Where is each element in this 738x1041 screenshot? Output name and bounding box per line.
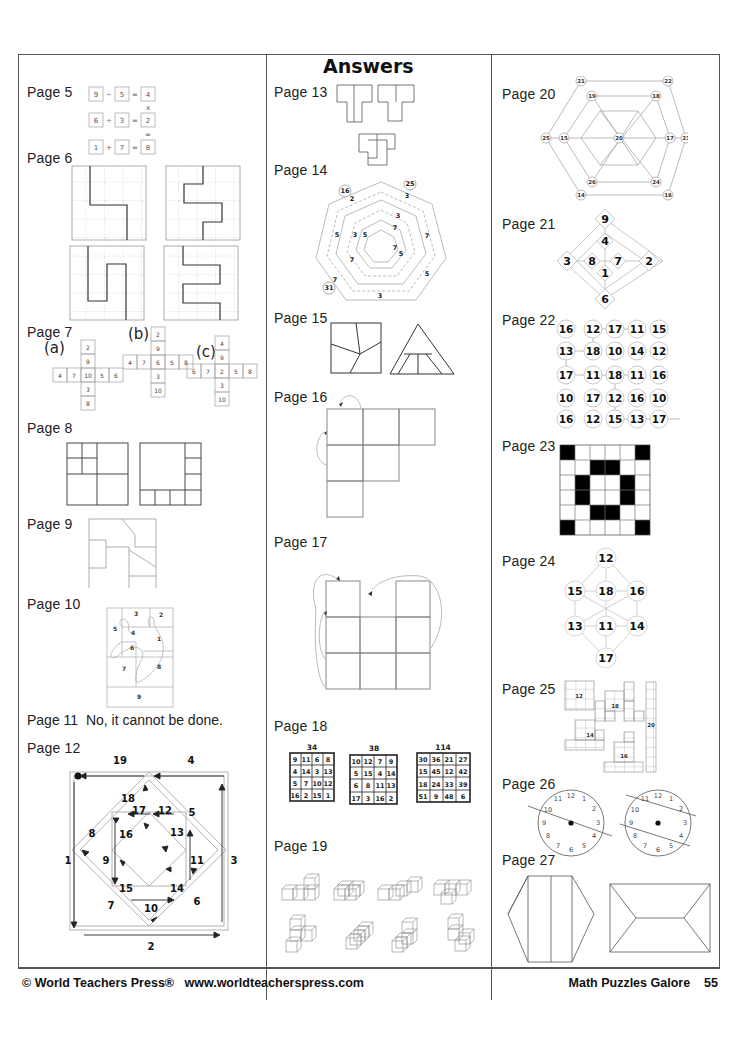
- svg-text:5: 5: [354, 770, 359, 778]
- svg-text:7: 7: [350, 256, 355, 264]
- svg-text:15: 15: [312, 792, 322, 800]
- label-page-21: Page 21: [502, 216, 556, 232]
- svg-text:2: 2: [159, 611, 163, 618]
- svg-text:6: 6: [192, 368, 196, 375]
- svg-text:10: 10: [559, 392, 574, 404]
- label-page-19: Page 19: [274, 838, 328, 854]
- label-page-22: Page 22: [502, 312, 556, 328]
- svg-text:7: 7: [206, 368, 210, 375]
- page10-map: 3 2 5 4 1 6 7 8 9: [106, 607, 176, 709]
- svg-text:2: 2: [389, 795, 394, 803]
- svg-text:6: 6: [315, 756, 320, 764]
- svg-text:6: 6: [461, 793, 466, 801]
- svg-text:1: 1: [94, 144, 98, 152]
- svg-text:2: 2: [304, 792, 309, 800]
- label-page-24: Page 24: [502, 553, 556, 569]
- svg-text:51: 51: [418, 793, 428, 801]
- svg-text:17: 17: [608, 323, 623, 335]
- svg-text:4: 4: [679, 832, 683, 840]
- svg-text:21: 21: [577, 78, 585, 84]
- svg-text:9: 9: [137, 693, 141, 700]
- label-page-5: Page 5: [27, 84, 73, 100]
- page26-clocks: 121234567891011 121234567891011: [520, 786, 710, 862]
- svg-text:13: 13: [630, 413, 645, 425]
- svg-text:11: 11: [598, 620, 613, 633]
- svg-text:13: 13: [567, 620, 582, 633]
- svg-text:1: 1: [65, 855, 72, 866]
- svg-text:3: 3: [683, 819, 687, 827]
- svg-text:6: 6: [354, 782, 359, 790]
- svg-text:10: 10: [218, 396, 226, 403]
- svg-text:9: 9: [220, 354, 224, 361]
- svg-text:3: 3: [353, 231, 358, 239]
- svg-text:10: 10: [84, 372, 92, 379]
- svg-text:7: 7: [378, 758, 383, 766]
- svg-text:10: 10: [608, 345, 623, 357]
- footer-divider: [491, 968, 492, 1000]
- svg-text:27: 27: [458, 756, 467, 764]
- svg-text:12: 12: [586, 413, 601, 425]
- svg-text:8: 8: [588, 255, 596, 268]
- svg-text:1: 1: [326, 792, 331, 800]
- svg-text:15: 15: [119, 883, 133, 894]
- svg-text:16: 16: [629, 585, 645, 598]
- svg-text:5: 5: [582, 842, 586, 850]
- svg-text:7: 7: [643, 842, 647, 850]
- page7-crosses: (a) (b) (c) 291038 4756 296310 4758 4923…: [36, 325, 266, 420]
- svg-text:9: 9: [601, 213, 609, 226]
- svg-text:6: 6: [114, 372, 118, 379]
- svg-text:17: 17: [666, 135, 674, 141]
- svg-text:15: 15: [652, 323, 667, 335]
- svg-text:5: 5: [100, 372, 104, 379]
- svg-text:9: 9: [94, 91, 98, 99]
- svg-text:1: 1: [669, 795, 673, 803]
- svg-text:17: 17: [132, 805, 146, 816]
- page25-shapes: 12 18 20 14 16: [557, 680, 657, 774]
- svg-text:2: 2: [592, 805, 596, 813]
- svg-text:5: 5: [399, 250, 404, 258]
- svg-text:15: 15: [363, 770, 373, 778]
- svg-text:12: 12: [575, 693, 583, 699]
- svg-text:11: 11: [190, 855, 204, 866]
- svg-text:11: 11: [586, 369, 601, 381]
- page15-shapes: [330, 322, 458, 378]
- svg-text:4: 4: [146, 91, 151, 99]
- svg-text:5: 5: [425, 270, 430, 278]
- page24-cube-graph: 12 15 18 16 13 11 14 17: [562, 546, 652, 668]
- svg-text:6: 6: [569, 846, 573, 854]
- page18-magic-squares: 34 38 114 91168 414313 571012 162151 101…: [280, 742, 480, 812]
- svg-text:7: 7: [393, 244, 398, 252]
- svg-text:3: 3: [366, 795, 371, 803]
- svg-text:8: 8: [146, 144, 150, 152]
- svg-text:16: 16: [375, 795, 385, 803]
- svg-text:16: 16: [559, 323, 574, 335]
- svg-text:12: 12: [654, 792, 662, 800]
- svg-text:5: 5: [189, 807, 196, 818]
- svg-text:7: 7: [425, 232, 430, 240]
- svg-text:4: 4: [128, 359, 132, 366]
- label-page-6: Page 6: [27, 150, 73, 166]
- page8-squares: [66, 442, 206, 508]
- svg-text:8: 8: [248, 368, 252, 375]
- svg-text:13: 13: [170, 827, 184, 838]
- svg-text:18: 18: [608, 369, 623, 381]
- svg-text:16: 16: [620, 753, 628, 759]
- page16-net: [310, 390, 470, 530]
- publisher-url[interactable]: www.worldteacherspress.com: [184, 976, 363, 990]
- svg-text:12: 12: [363, 758, 372, 766]
- svg-text:5: 5: [113, 625, 117, 632]
- svg-text:20: 20: [647, 722, 655, 728]
- svg-text:4: 4: [220, 340, 224, 347]
- svg-text:3: 3: [86, 386, 90, 393]
- svg-text:26: 26: [588, 179, 596, 185]
- svg-text:−: −: [106, 91, 112, 99]
- svg-text:3: 3: [120, 117, 124, 125]
- svg-text:3: 3: [396, 212, 401, 220]
- book-title: Math Puzzles Galore: [569, 976, 691, 990]
- page9-figure: [88, 518, 160, 590]
- svg-text:18: 18: [586, 345, 601, 357]
- copyright-text: © World Teachers Press®: [22, 976, 174, 990]
- svg-text:24: 24: [431, 781, 441, 789]
- svg-text:42: 42: [458, 768, 467, 776]
- svg-text:3: 3: [134, 610, 138, 617]
